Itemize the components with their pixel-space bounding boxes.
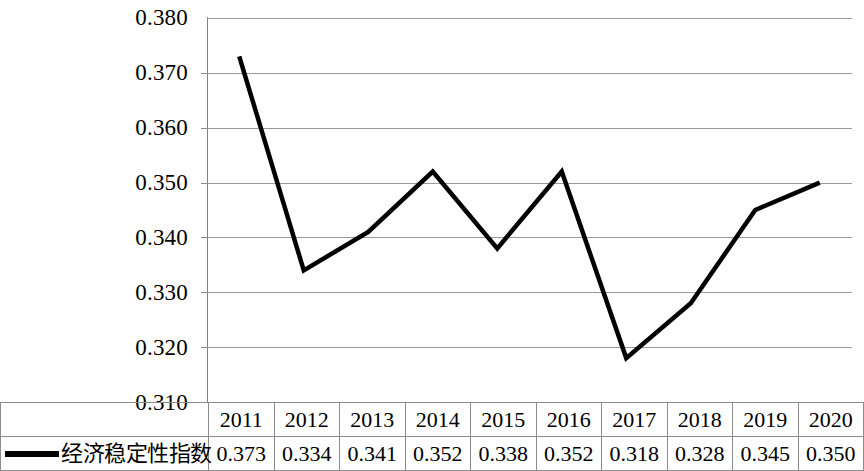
legend-line-marker-icon [5,451,59,457]
y-tick-label: 0.350 [135,171,188,194]
table-value-cell: 0.338 [471,437,537,471]
data-table: 2011 2012 2013 2014 2015 2016 2017 2018 … [0,402,852,468]
legend-entry: 经济稳定性指数 [1,437,209,471]
table-value-cell: 0.350 [798,437,864,471]
table-header-cell: 2011 [209,403,275,437]
table-value-cell: 0.352 [405,437,471,471]
table-header-cell: 2019 [733,403,799,437]
table-header-cell: 2018 [667,403,733,437]
table-value-cell: 0.373 [209,437,275,471]
y-tick-label: 0.340 [135,226,188,249]
y-tick-label: 0.370 [135,61,188,84]
y-tick-label: 0.360 [135,116,188,139]
table-header-cell: 2015 [471,403,537,437]
y-tick-label: 0.380 [135,6,188,29]
table-header-cell: 2013 [340,403,406,437]
table-value-cell: 0.352 [536,437,602,471]
y-axis: 0.380 0.370 0.360 0.350 0.340 0.330 0.32… [0,0,198,410]
table-value-cell: 0.341 [340,437,406,471]
y-tick-label: 0.320 [135,336,188,359]
table-value-cell: 0.345 [733,437,799,471]
table-header-cell: 2012 [274,403,340,437]
table-corner-blank [1,403,209,437]
table-header-cell: 2016 [536,403,602,437]
legend-label: 经济稳定性指数 [61,443,212,465]
table-value-cell: 0.334 [274,437,340,471]
table-header-cell: 2014 [405,403,471,437]
series-line-economic-stability-index [207,18,852,402]
table-header-cell: 2017 [602,403,668,437]
table-row-values: 经济稳定性指数 0.373 0.334 0.341 0.352 0.338 0.… [1,437,864,471]
table-value-cell: 0.328 [667,437,733,471]
table-header-cell: 2020 [798,403,864,437]
plot-area [207,18,852,402]
table-row-header: 2011 2012 2013 2014 2015 2016 2017 2018 … [1,403,864,437]
table-value-cell: 0.318 [602,437,668,471]
y-tick-label: 0.330 [135,281,188,304]
